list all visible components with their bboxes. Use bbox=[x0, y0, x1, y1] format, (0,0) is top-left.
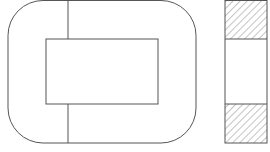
side-view bbox=[225, 1, 267, 144]
side-hatch-top bbox=[225, 1, 267, 40]
core-diagram bbox=[0, 0, 270, 152]
front-view bbox=[8, 1, 196, 144]
inner-window bbox=[46, 39, 158, 104]
side-hatch-bottom bbox=[225, 104, 267, 143]
